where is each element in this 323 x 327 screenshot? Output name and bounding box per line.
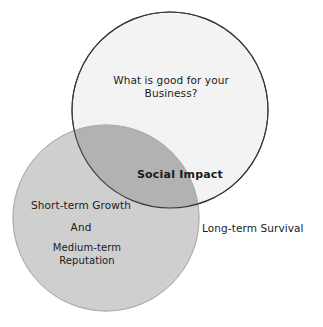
and-connector-label: And <box>38 221 124 234</box>
social-impact-label: Social Impact <box>126 168 234 182</box>
short-term-growth-label: Short-term Growth <box>18 199 144 212</box>
medium-term-reputation-label: Medium-term Reputation <box>35 241 139 268</box>
long-term-survival-label: Long-term Survival <box>202 222 314 235</box>
venn-diagram-canvas <box>0 0 323 327</box>
business-circle-label: What is good for your Business? <box>93 74 249 101</box>
venn-diagram: What is good for your Business? Social I… <box>0 0 323 327</box>
